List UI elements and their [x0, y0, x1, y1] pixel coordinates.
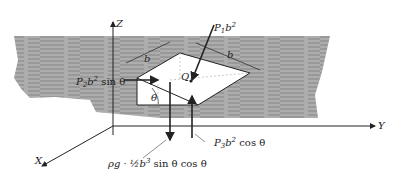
x-axis — [42, 126, 113, 166]
z-axis-label: Z — [116, 19, 123, 29]
force-p3-label: P3b2 cos θ — [214, 137, 265, 150]
y-axis-label: Y — [378, 121, 385, 131]
wedge-diagram — [0, 0, 393, 176]
force-p2-label: P2b2 sin θ — [76, 76, 125, 89]
x-axis-label: X — [35, 156, 42, 166]
dimension-b-left: b — [144, 54, 150, 64]
point-q-label: Q — [181, 72, 189, 82]
force-weight-label: ρg · ½b3 sin θ cos θ — [108, 158, 207, 169]
angle-theta-label: θ — [151, 93, 157, 103]
dimension-b-right: b — [227, 50, 233, 60]
force-p1-label: P1b2 — [214, 22, 236, 35]
